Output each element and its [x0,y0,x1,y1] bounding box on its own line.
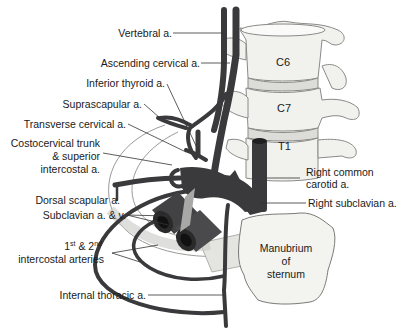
label-vertebral-artery: Vertebral a. [118,27,172,39]
label-intercostal-arteries-2: intercostal arteries [18,253,104,265]
label-right-common-carotid-2: carotid a. [306,178,349,190]
superscript: nd [94,240,102,247]
label-costocervical-trunk-3: intercostal a. [40,163,100,175]
label-text: & 2 [76,240,95,252]
label-transverse-cervical-artery: Transverse cervical a. [24,118,126,130]
label-right-subclavian-artery: Right subclavian a. [308,197,397,209]
vertebra-label-t1: T1 [278,140,291,152]
label-ascending-cervical-artery: Ascending cervical a. [101,57,200,69]
superscript: st [70,240,75,247]
label-dorsal-scapular-artery: Dorsal scapular a. [35,194,120,206]
label-suprascapular-artery: Suprascapular a. [63,98,142,110]
label-costocervical-trunk-2: & superior [52,150,100,162]
label-intercostal-arteries-1: 1st & 2nd [64,240,102,252]
label-manubrium-of: of [256,255,316,267]
label-subclavian-artery-vein: Subclavian a. & v. [43,209,126,221]
label-internal-thoracic-artery: Internal thoracic a. [60,289,146,301]
label-costocervical-trunk-1: Costocervical trunk [11,137,100,149]
label-inferior-thyroid-artery: Inferior thyroid a. [86,77,165,89]
vertebra-label-c6: C6 [276,56,290,68]
anatomy-diagram: C6 C7 T1 Vertebral a. Ascending cervical… [0,0,402,334]
vertebra-label-c7: C7 [277,102,291,114]
label-manubrium: Manubrium [256,242,316,254]
label-sternum: sternum [256,268,316,280]
label-right-common-carotid-1: Right common [306,166,374,178]
